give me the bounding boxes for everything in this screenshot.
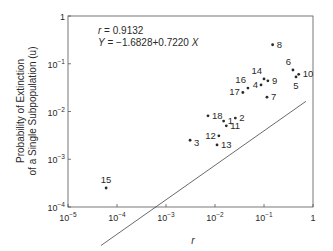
y-tick-label: 10−1 <box>48 58 66 70</box>
y-tick-label: 10−3 <box>48 153 66 165</box>
data-point-label: 6 <box>286 56 291 67</box>
scatter-chart: 10−510−410−310−210−11 10−410−310−210−11 … <box>0 0 333 251</box>
data-point-16 <box>247 87 250 90</box>
data-point-label: 12 <box>205 130 216 141</box>
regression-line <box>101 101 306 245</box>
data-point-label: 11 <box>230 120 240 131</box>
data-point-label: 15 <box>101 174 112 185</box>
data-point-label: 17 <box>229 86 240 97</box>
data-point-label: 7 <box>271 91 276 102</box>
data-point-3 <box>189 139 192 142</box>
x-tick-label: 10−4 <box>108 211 126 223</box>
data-points: 123456789101112131415161718 <box>101 39 313 190</box>
data-point-label: 18 <box>212 110 223 121</box>
data-point-6 <box>292 69 295 72</box>
data-point-label: 16 <box>235 74 246 85</box>
regression-line-group <box>101 101 306 245</box>
data-point-10 <box>297 73 300 76</box>
x-axis-label: r <box>191 235 195 246</box>
y-axis-label-line2: of a Single Subpopulation (u) <box>27 47 38 176</box>
data-point-9 <box>266 79 269 82</box>
data-point-label: 10 <box>303 68 314 79</box>
y-axis-label-line1: Probability of Extinction <box>15 59 26 163</box>
y-tick-label: 10−4 <box>48 201 66 213</box>
y-axis-label: Probability of Extinction of a Single Su… <box>15 47 38 176</box>
equation-annotation: Y = −1.6828+0.7220 X <box>98 37 199 48</box>
x-tick-label: 1 <box>310 213 315 223</box>
data-point-15 <box>105 187 108 190</box>
data-point-17 <box>241 91 244 94</box>
data-point-5 <box>295 76 298 79</box>
x-tick-label: 10−3 <box>157 211 175 223</box>
data-point-label: 5 <box>293 80 298 91</box>
data-point-4 <box>260 84 263 87</box>
data-point-11 <box>225 124 228 127</box>
data-point-label: 3 <box>194 137 199 148</box>
x-tick-label: 10−2 <box>206 211 224 223</box>
data-point-label: 14 <box>251 65 262 76</box>
x-tick-label: 10−5 <box>59 211 77 223</box>
correlation-annotation: r = 0.9132 <box>98 25 144 36</box>
y-tick-label: 10−2 <box>48 106 66 118</box>
y-tick-label: 1 <box>60 12 65 22</box>
data-point-18 <box>207 114 210 117</box>
x-tick-label: 10−1 <box>255 211 273 223</box>
data-point-14 <box>263 78 266 81</box>
data-point-label: 4 <box>253 79 258 90</box>
data-point-1 <box>222 120 225 123</box>
data-point-label: 13 <box>221 139 232 150</box>
y-axis-ticks: 10−410−310−210−11 <box>48 12 71 213</box>
data-point-7 <box>266 96 269 99</box>
data-point-8 <box>271 43 274 46</box>
data-point-12 <box>217 134 220 137</box>
data-point-13 <box>216 143 219 146</box>
data-point-label: 8 <box>277 39 282 50</box>
data-point-label: 9 <box>272 75 277 86</box>
